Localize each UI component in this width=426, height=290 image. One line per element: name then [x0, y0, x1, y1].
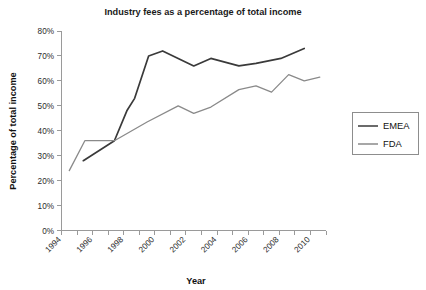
x-tick-group: 199419961998200020022004200620082010 [44, 231, 326, 255]
x-axis: 199419961998200020022004200620082010 [44, 231, 326, 255]
y-tick-label: 50% [38, 102, 54, 111]
y-tick-label: 10% [38, 202, 54, 211]
legend-label-emea: EMEA [383, 120, 410, 131]
x-tick-label: 2000 [137, 235, 157, 255]
y-tick-group: 0%10%20%30%40%50%60%70%80% [38, 27, 62, 236]
series-line-fda [69, 75, 320, 171]
y-tick-label: 70% [38, 52, 54, 61]
x-tick-label: 2004 [199, 235, 219, 255]
y-tick-label: 40% [38, 127, 54, 136]
x-tick-label: 2002 [168, 235, 188, 255]
chart-container: Industry fees as a percentage of total i… [0, 0, 426, 290]
y-tick-label: 30% [38, 152, 54, 161]
x-tick-label: 1998 [106, 235, 126, 255]
chart-title: Industry fees as a percentage of total i… [104, 7, 301, 17]
x-tick-label: 1996 [75, 235, 95, 255]
y-tick-label: 60% [38, 77, 54, 86]
y-tick-label: 80% [38, 27, 54, 36]
legend-label-fda: FDA [383, 138, 402, 149]
x-tick-label: 2008 [261, 235, 281, 255]
x-tick-label: 2010 [293, 235, 313, 255]
y-axis: 0%10%20%30%40%50%60%70%80% [38, 27, 62, 236]
y-tick-label: 20% [38, 177, 54, 186]
x-tick-label: 1994 [44, 235, 64, 255]
y-tick-label: 0% [42, 227, 54, 236]
chart-legend: EMEAFDA [353, 113, 419, 155]
x-axis-label: Year [186, 276, 206, 286]
line-chart: Industry fees as a percentage of total i… [0, 0, 426, 290]
x-tick-label: 2006 [230, 235, 250, 255]
series-lines [69, 48, 320, 170]
series-line-emea [83, 48, 304, 160]
y-axis-label: Percentage of total income [8, 72, 18, 189]
